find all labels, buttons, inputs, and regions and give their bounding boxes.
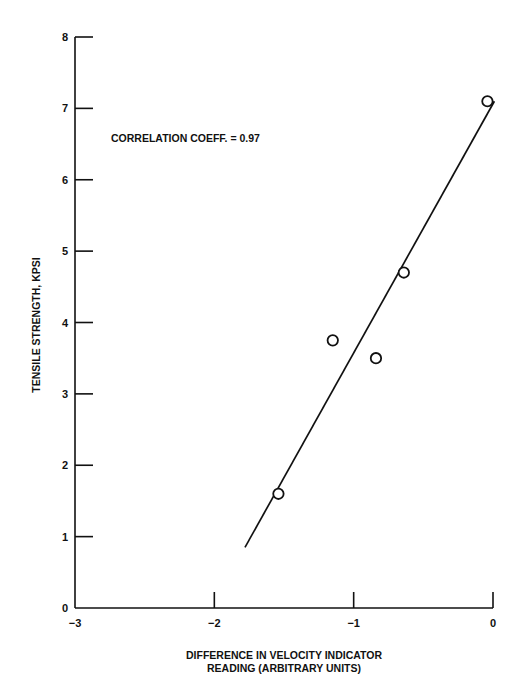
y-tick-label: 3: [62, 388, 68, 400]
y-tick-label: 7: [62, 102, 68, 114]
x-axis-title-line-1: DIFFERENCE IN VELOCITY INDICATOR: [186, 649, 382, 661]
y-tick-label: 0: [62, 602, 68, 614]
y-tick-label: 5: [62, 245, 68, 257]
y-axis-title: TENSILE STRENGTH, KPSI: [30, 257, 42, 392]
axes: 012345678−3−2−10: [62, 31, 496, 629]
data-point-circle-icon: [371, 353, 381, 363]
x-tick-label: −1: [347, 617, 360, 629]
data-point-circle-icon: [399, 267, 409, 277]
data-point-circle-icon: [328, 335, 338, 345]
axis-labels: CORRELATION COEFF. = 0.97 DIFFERENCE IN …: [30, 132, 382, 674]
fit-line: [245, 101, 494, 547]
data-point-circle-icon: [482, 96, 492, 106]
x-axis-title-line-2: READING (ARBITRARY UNITS): [207, 662, 361, 674]
y-tick-label: 1: [62, 531, 68, 543]
y-tick-label: 8: [62, 31, 68, 43]
x-tick-label: 0: [490, 617, 496, 629]
correlation-annotation: CORRELATION COEFF. = 0.97: [111, 132, 260, 144]
scatter-chart: 012345678−3−2−10 CORRELATION COEFF. = 0.…: [0, 0, 523, 698]
y-tick-label: 4: [62, 317, 69, 329]
x-tick-label: −2: [208, 617, 221, 629]
y-tick-label: 6: [62, 174, 68, 186]
data-point-circle-icon: [273, 489, 283, 499]
y-tick-label: 2: [62, 459, 68, 471]
x-tick-label: −3: [69, 617, 82, 629]
regression-line: [245, 101, 494, 547]
